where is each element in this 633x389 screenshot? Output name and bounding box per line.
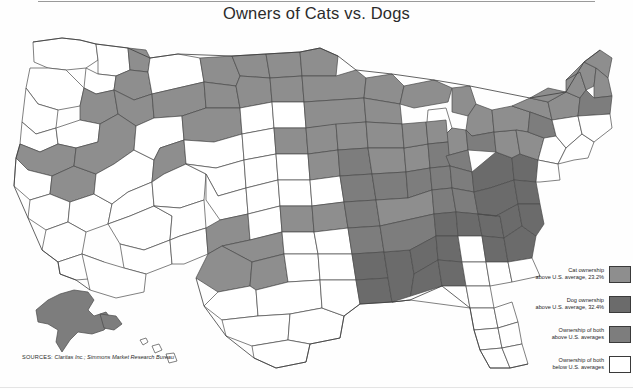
dma-region bbox=[312, 202, 348, 232]
dma-region bbox=[280, 206, 314, 232]
legend-item-both-above: Ownership of both above U.S. averages bbox=[505, 323, 631, 345]
dma-region bbox=[340, 174, 376, 202]
legend-label-cat-line2: above U.S. average, 23.2% bbox=[536, 274, 604, 281]
legend-item-cat: Cat ownership above U.S. average, 23.2% bbox=[505, 263, 631, 285]
legend-item-dog: Dog ownership above U.S. average, 32.4% bbox=[505, 293, 631, 315]
dma-region bbox=[276, 154, 310, 180]
dma-region bbox=[128, 48, 150, 72]
dma-region bbox=[300, 48, 338, 76]
legend-swatch-both-above bbox=[609, 326, 631, 343]
source-label: SOURCES: bbox=[22, 354, 53, 360]
dma-region bbox=[204, 286, 258, 320]
map-legend: Cat ownership above U.S. average, 23.2% … bbox=[505, 263, 631, 383]
dma-region bbox=[314, 228, 352, 254]
dma-region bbox=[352, 252, 388, 280]
dma-region bbox=[310, 176, 344, 206]
legend-label-dog-line2: above U.S. average, 32.4% bbox=[536, 304, 604, 311]
dma-region bbox=[474, 328, 502, 350]
dma-region bbox=[306, 124, 338, 154]
source-text: Claritas Inc.; Simmons Market Research B… bbox=[54, 354, 174, 360]
legend-swatch-both-below bbox=[609, 356, 631, 373]
dma-region bbox=[33, 38, 98, 70]
dma-region bbox=[252, 340, 310, 368]
dma-region bbox=[372, 172, 408, 200]
dma-region-hawaii bbox=[140, 338, 148, 345]
dma-region bbox=[366, 122, 404, 148]
dma-region bbox=[204, 82, 240, 108]
dma-region-alaska bbox=[36, 290, 112, 352]
dma-region bbox=[278, 180, 312, 206]
legend-label-both-below: Ownership of both below U.S. averages bbox=[552, 357, 609, 372]
dma-region bbox=[436, 236, 462, 262]
bottom-divider bbox=[0, 387, 633, 388]
dma-region bbox=[266, 52, 302, 78]
dma-region bbox=[428, 142, 450, 168]
legend-label-both-above-line2: above U.S. averages bbox=[552, 334, 604, 341]
dma-region bbox=[344, 200, 380, 228]
dma-region bbox=[336, 122, 368, 150]
map-infographic: Owners of Cats vs. Dogs bbox=[0, 0, 633, 389]
dma-region bbox=[400, 80, 452, 108]
dma-region bbox=[462, 262, 490, 286]
legend-label-both-above-line1: Ownership of both bbox=[559, 327, 604, 333]
legend-label-both-below-line1: Ownership of both bbox=[559, 357, 604, 363]
title-bar: Owners of Cats vs. Dogs bbox=[0, 0, 633, 27]
legend-label-both-below-line2: below U.S. averages bbox=[552, 364, 604, 371]
legend-label-cat: Cat ownership above U.S. average, 23.2% bbox=[536, 267, 609, 282]
legend-swatch-cat bbox=[609, 266, 631, 283]
page-title: Owners of Cats vs. Dogs bbox=[0, 4, 633, 23]
legend-label-dog-line1: Dog ownership bbox=[567, 297, 604, 303]
dma-region bbox=[458, 236, 486, 262]
legend-label-dog: Dog ownership above U.S. average, 32.4% bbox=[536, 297, 609, 312]
legend-item-both-below: Ownership of both below U.S. averages bbox=[505, 353, 631, 375]
dma-region bbox=[272, 102, 306, 128]
dma-region bbox=[96, 44, 130, 76]
dma-region bbox=[308, 150, 340, 180]
dma-region bbox=[438, 260, 466, 286]
dma-region bbox=[368, 148, 406, 174]
dma-region bbox=[338, 148, 372, 176]
dma-region bbox=[470, 308, 498, 330]
title-divider bbox=[38, 1, 595, 2]
dma-region bbox=[514, 180, 540, 204]
dma-region bbox=[282, 232, 318, 254]
dma-region bbox=[356, 278, 392, 304]
dma-region bbox=[402, 122, 428, 148]
dma-region bbox=[466, 286, 494, 308]
legend-label-both-above: Ownership of both above U.S. averages bbox=[552, 327, 609, 342]
dma-region bbox=[318, 254, 356, 280]
legend-label-cat-line1: Cat ownership bbox=[568, 267, 604, 273]
source-note: SOURCES: Claritas Inc.; Simmons Market R… bbox=[22, 354, 174, 360]
legend-swatch-dog bbox=[609, 296, 631, 313]
dma-region bbox=[270, 76, 304, 102]
dma-region bbox=[430, 166, 452, 190]
dma-region bbox=[274, 128, 308, 154]
dma-region bbox=[284, 254, 320, 282]
dma-region bbox=[426, 120, 448, 144]
dma-region bbox=[348, 226, 384, 254]
dma-region bbox=[434, 212, 458, 236]
dma-region-hawaii bbox=[152, 344, 162, 353]
dma-region bbox=[404, 144, 430, 172]
